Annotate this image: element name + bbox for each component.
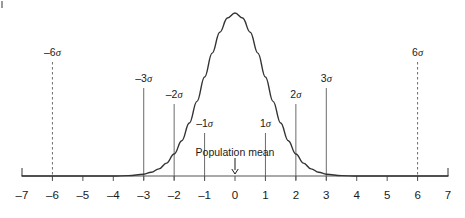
- sigma-label-plus-2-sigma: 2σ: [290, 89, 301, 101]
- distribution-plot-svg: [0, 0, 465, 218]
- x-axis-tick-label--6: –6: [46, 190, 59, 202]
- x-axis-tick-label--2: –2: [168, 190, 181, 202]
- x-axis-tick-label-2: 2: [293, 190, 299, 202]
- sigma-label-plus-6-sigma: 6σ: [412, 47, 423, 59]
- normal-distribution-figure: –6σ–3σ–2σ–1σ1σ2σ3σ6σ–7–6–5–4–3–2–1012345…: [0, 0, 465, 218]
- sigma-label-minus-1-sigma: –1σ: [196, 118, 213, 130]
- x-axis-tick-label-7: 7: [445, 190, 451, 202]
- sigma-label-plus-1-sigma: 1σ: [260, 118, 271, 130]
- x-axis-tick-label--4: –4: [107, 190, 120, 202]
- x-axis-tick-label--5: –5: [76, 190, 89, 202]
- x-axis-tick-label-6: 6: [414, 190, 420, 202]
- x-axis-tick-label-0: 0: [232, 190, 238, 202]
- x-axis-tick-label-3: 3: [323, 190, 329, 202]
- sigma-label-minus-2-sigma: –2σ: [166, 89, 183, 101]
- sigma-label-plus-3-sigma: 3σ: [321, 73, 332, 85]
- x-axis-tick-label-4: 4: [354, 190, 360, 202]
- x-axis-tick-label-1: 1: [262, 190, 268, 202]
- x-axis-tick-label--7: –7: [16, 190, 29, 202]
- x-axis-tick-label--1: –1: [198, 190, 211, 202]
- x-axis-tick-label-5: 5: [384, 190, 390, 202]
- annotation-population-mean-text: Population mean: [196, 146, 275, 158]
- x-axis-tick-label--3: –3: [137, 190, 150, 202]
- sigma-label-minus-6-sigma: –6σ: [44, 47, 61, 59]
- sigma-label-minus-3-sigma: –3σ: [135, 73, 152, 85]
